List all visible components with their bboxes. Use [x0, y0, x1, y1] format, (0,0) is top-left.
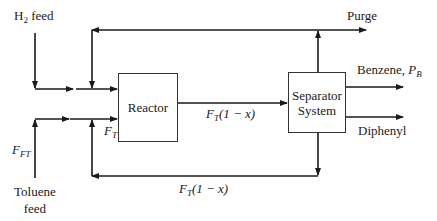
purge-label: Purge: [347, 9, 377, 23]
toluene-feed-line1: Toluene: [14, 183, 56, 200]
diphenyl-label: Diphenyl: [358, 124, 406, 138]
reactor-feed-subscript: T: [112, 130, 117, 140]
purge-text: Purge: [347, 8, 377, 23]
effluent-symbol: F: [206, 106, 214, 121]
recycle-symbol: F: [179, 181, 187, 196]
toluene-flow-label: FFT: [12, 143, 30, 161]
reactor-feed-symbol: F: [104, 123, 112, 138]
recycle-label: FT(1 − x): [179, 182, 228, 200]
benzene-label: Benzene, PB: [357, 63, 422, 81]
toluene-flow-subscript: FT: [20, 149, 31, 159]
h2-feed-text: feed: [28, 8, 54, 23]
h2-symbol: H: [14, 8, 23, 23]
toluene-feed-line2: feed: [14, 200, 56, 217]
toluene-flow-symbol: F: [12, 142, 20, 157]
reactor-feed-label: FT: [104, 124, 117, 142]
separator-block: Separator System: [288, 72, 346, 133]
separator-label-line1: Separator: [292, 88, 342, 103]
reactor-block: Reactor: [118, 73, 178, 142]
effluent-expression: (1 − x): [219, 106, 255, 121]
reactor-effluent-label: FT(1 − x): [206, 107, 255, 125]
toluene-feed-label: Toluene feed: [14, 183, 56, 217]
diphenyl-text: Diphenyl: [358, 123, 406, 138]
separator-label-line2: System: [298, 103, 336, 118]
reactor-label: Reactor: [128, 100, 168, 115]
recycle-expression: (1 − x): [192, 181, 228, 196]
benzene-subscript: B: [416, 69, 422, 79]
benzene-text: Benzene,: [357, 62, 408, 77]
h2-feed-label: H2 feed: [14, 9, 54, 27]
